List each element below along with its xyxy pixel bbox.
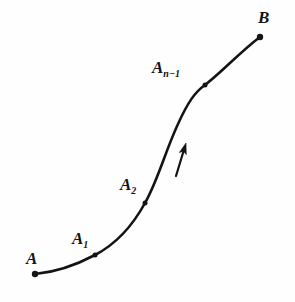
label-an-minus-1: An−1 — [152, 59, 180, 76]
label-a2: A2 — [120, 176, 136, 193]
label-an-minus-1-base: A — [152, 58, 163, 77]
diagram-canvas — [0, 0, 295, 302]
label-a1: A1 — [72, 230, 88, 247]
label-a1-sub: 1 — [83, 239, 88, 250]
point-marker-an-1 — [203, 83, 208, 88]
point-marker-a — [32, 271, 38, 277]
point-marker-b — [257, 34, 263, 40]
label-b-base: B — [258, 8, 269, 27]
label-a2-base: A — [120, 175, 131, 194]
label-b: B — [258, 9, 269, 26]
point-marker-a2 — [143, 201, 148, 206]
label-a2-sub: 2 — [131, 185, 136, 196]
point-marker-a1 — [93, 253, 98, 258]
label-an-minus-1-sub: n−1 — [163, 68, 180, 79]
label-a-base: A — [26, 249, 37, 268]
curve-diagram-figure: A A1 A2 An−1 B — [0, 0, 295, 302]
label-a: A — [26, 250, 37, 267]
label-a1-base: A — [72, 229, 83, 248]
